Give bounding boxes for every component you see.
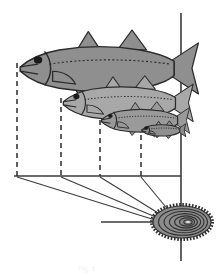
back-calculation-diagram: Fig. 1 [0,0,219,275]
otolith-with-growth-rings [152,205,213,240]
fish-1-eye [34,56,42,63]
figure-caption: Fig. 1 [78,265,96,273]
fish-4-body [142,125,180,136]
fish-3-eye [108,114,112,118]
fish-2-eye [73,94,79,99]
caudal-fin [173,43,199,94]
fish-4-eye [144,126,148,130]
otolith-nucleus [186,221,190,223]
